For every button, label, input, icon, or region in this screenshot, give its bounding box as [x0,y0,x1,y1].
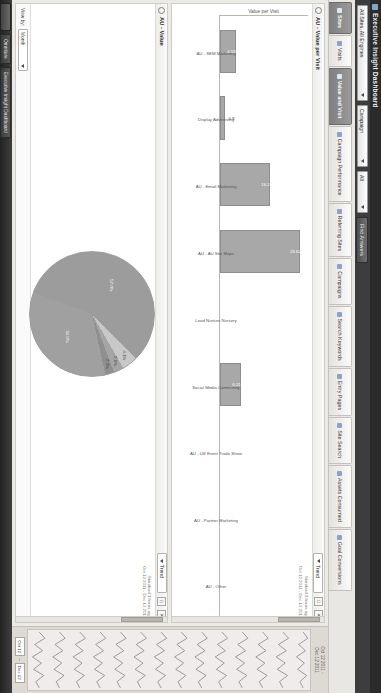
start-date-input[interactable]: Oct 12 [15,637,25,656]
tab-label: Search Keywords [337,319,343,361]
end-date-input[interactable]: Dec 12 [15,663,25,683]
rail-header-line2: Dec 12 2011 [313,629,319,691]
scrollbar-thumb[interactable] [122,617,164,622]
x-axis-tick-label: Display Advertising [198,117,234,122]
tab-referring-sites[interactable]: Referring Sites [329,203,352,258]
x-axis-tick-label: AU - US Event Trade Show [190,451,242,456]
windows-taskbar: Omniture Executive Insight Dashboard [0,0,12,693]
scrollbar-thumb[interactable] [278,617,320,622]
site-engine-select[interactable]: All Sites, All Engines [357,5,368,101]
tab-visits[interactable]: Visits [329,35,352,67]
bar-y-axis-label-text: Value per Visit [249,9,280,14]
bar-value-label: 16.2 [261,182,270,187]
tab-entry-pages[interactable]: Entry Pages [329,368,352,416]
minimize-button[interactable]: □ [158,597,167,606]
x-axis-tick: Display Advertising [175,84,219,151]
bar-x-axis-labels: AU - SEM MarketingDisplay AdvertisingAU … [175,15,220,620]
tab-assets-consumed[interactable]: Assets Consumed [329,465,352,528]
date-range-rail: Oct 12 2011 - Dec 12 2011 [12,626,328,693]
range-dash: – [18,658,23,661]
visits-icon [338,41,343,46]
view-by-select[interactable]: Month [18,29,28,71]
x-axis-tick-label: AU - AU Site Maps [199,251,235,256]
x-axis-tick: AU - Other [175,551,219,618]
site-engine-value: All Sites, All Engines [360,9,366,57]
tab-label: Visits [337,48,343,61]
pie-slice-label: 57.0% [108,279,113,291]
dimension-select[interactable]: Campaign [357,105,368,167]
panel-scrollbar[interactable] [16,616,168,622]
report-icon [159,7,166,14]
asset-icon [338,471,343,476]
timeline-sparkline[interactable] [27,629,311,691]
find-answers-button[interactable]: Find Answers [357,217,369,263]
bar-plot-row: Value per Visit 4.530.916.226.626.21 [220,8,309,620]
panel-body: Standard 3 hours ago Oct 12 2011 - Dec 1… [31,4,156,622]
x-axis-tick-label: AU - SEM Marketing [197,50,236,55]
rail-date-header: Oct 12 2011 - Dec 12 2011 [313,629,325,691]
panel-header: AU - Value Trend □ ✕ [156,4,168,622]
tab-label: Value and Visit [337,81,343,119]
chevron-down-icon [22,64,25,68]
view-by-value: Month [21,32,26,45]
panel-header-controls: Trend □ ✕ [314,553,324,619]
bar-y-axis-label: Value per Visit [220,8,309,15]
chevron-down-icon [361,205,364,209]
pie-plot-area: 57.0%4.1%2.6%2.3%34.0% [33,8,152,620]
tab-campaigns[interactable]: Campaigns [329,258,352,304]
tab-label: Assets Consumed [337,478,343,522]
tab-search-keywords[interactable]: Search Keywords [329,306,352,367]
trend-select[interactable]: Trend [157,553,167,593]
x-axis-tick: AU - Email Marketing [175,151,219,218]
bar-column[interactable] [221,551,309,618]
search-icon [338,312,343,317]
tab-goal-conversions[interactable]: Goal Conversions [329,529,352,591]
goal-icon [338,535,343,540]
date-range-inputs: Oct 12 – Dec 12 [15,629,25,691]
x-axis-tick: AU - US Event Trade Show [175,418,219,485]
tab-value-and-visit[interactable]: Value and Visit [329,68,352,125]
screenshot-root: Executive Insight Dashboard All Sites, A… [0,0,381,693]
tab-site-search[interactable]: Site Search [329,417,352,464]
start-button[interactable] [1,3,12,31]
x-axis-tick: AU - SEM Marketing [175,17,219,84]
x-axis-tick: AU - AU Site Maps [175,217,219,284]
value-select[interactable]: All [357,171,368,213]
tab-sites[interactable]: Sites [329,2,352,34]
sparkline-svg [28,630,310,690]
chart-icon [338,132,343,137]
minimize-button[interactable]: □ [314,597,323,606]
link-icon [338,209,343,214]
tab-strip: Sites Visits Value and Visit Campaign Pe… [328,0,355,693]
taskbar-item[interactable]: Executive Insight Dashboard [1,67,12,138]
window-title: Executive Insight Dashboard [372,13,379,108]
x-axis-tick: Social Media Community [175,351,219,418]
trend-select[interactable]: Trend [314,553,324,593]
page-icon [338,374,343,379]
panel-scrollbar[interactable] [173,616,325,622]
chevron-down-icon [361,159,364,163]
chevron-down-icon [161,559,164,563]
view-by-label: View by: [21,8,26,26]
x-axis-tick-label: Social Media Community [193,384,241,389]
panel-header-controls: Trend □ ✕ [157,553,167,619]
x-axis-tick-label: AU - Email Marketing [196,184,237,189]
dashboard-app: Executive Insight Dashboard All Sites, A… [0,0,381,693]
tab-campaign-performance[interactable]: Campaign Performance [329,126,352,202]
dimension-value: Campaign [360,109,366,133]
x-axis-tick: Lead Nurture Nursery [175,284,219,351]
tab-label: Sites [337,15,343,28]
x-axis-tick-label: Lead Nurture Nursery [196,318,237,323]
panel-title: AU - Value per Visit [316,17,322,70]
bar-value-label: 26.62 [290,249,301,254]
flag-icon [338,264,343,269]
trend-select-value: Trend [159,565,165,578]
panel-title: AU - Value [159,17,165,46]
taskbar-item[interactable]: Omniture [1,34,12,64]
tab-label: Site Search [337,430,343,458]
trend-select-value: Trend [316,565,322,578]
chevron-down-icon [317,559,320,563]
pie-slice-label: 4.1% [121,350,126,360]
rotated-container: Executive Insight Dashboard All Sites, A… [0,0,381,693]
x-axis-tick-label: AU - Partner Marketing [195,518,239,523]
